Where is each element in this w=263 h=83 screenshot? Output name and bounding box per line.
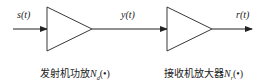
receiver-amplifier-triangle	[167, 7, 212, 51]
transmitter-caption: 发射机功放Nd(•)	[40, 65, 110, 81]
receiver-symbol: N	[224, 68, 231, 79]
signal-label-middle: y(t)	[121, 9, 135, 20]
signal-label-output: r(t)	[236, 9, 249, 20]
receiver-argument: (•)	[233, 68, 243, 79]
transmitter-argument: (•)	[100, 68, 110, 79]
transmitter-symbol: N	[90, 68, 97, 79]
transmitter-amplifier-triangle	[47, 7, 92, 51]
signal-label-input: s(t)	[17, 9, 30, 20]
transmitter-caption-text: 发射机功放	[40, 68, 90, 79]
receiver-caption: 接收机放大器Nr(•)	[164, 65, 243, 81]
receiver-caption-text: 接收机放大器	[164, 68, 224, 79]
